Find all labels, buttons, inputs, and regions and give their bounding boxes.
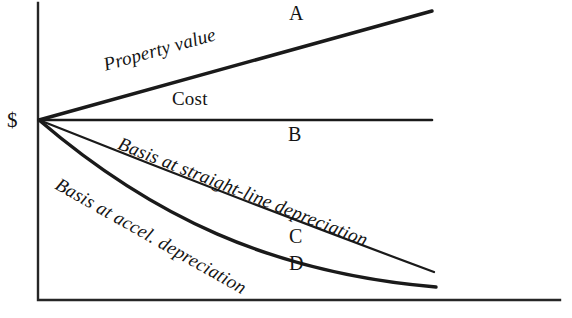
depreciation-basis-chart: $ Property value Cost Basis at straight-… — [0, 0, 572, 318]
series-letter-a: A — [289, 2, 303, 25]
series-label-cost: Cost — [172, 88, 208, 110]
value-axis-label: $ — [7, 108, 18, 133]
series-letter-c: C — [289, 225, 302, 248]
series-line-property-value — [39, 11, 432, 120]
series-letter-d: D — [289, 252, 303, 275]
chart-canvas — [0, 0, 572, 318]
series-letter-b: B — [288, 123, 301, 146]
